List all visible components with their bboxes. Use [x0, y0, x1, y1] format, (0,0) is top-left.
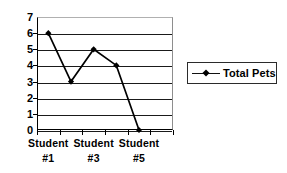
y-tick-mark [33, 33, 37, 34]
legend: Total Pets [187, 62, 277, 84]
legend-marker-icon [192, 66, 220, 80]
chart-screenshot: 76543210 Student#1Student#3Student#5 Tot… [0, 0, 287, 173]
y-tick-mark [33, 114, 37, 115]
y-tick-mark [33, 82, 37, 83]
legend-label-total-pets: Total Pets [223, 67, 276, 79]
data-point-marker [136, 127, 142, 133]
y-tick-mark [33, 65, 37, 66]
y-tick-mark [33, 49, 37, 50]
data-point-marker [45, 30, 51, 36]
series-total-pets [0, 0, 287, 173]
y-tick-mark [33, 98, 37, 99]
